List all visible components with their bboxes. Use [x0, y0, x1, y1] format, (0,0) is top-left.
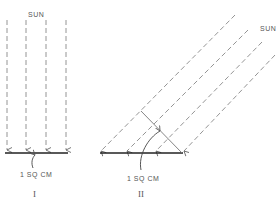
ray-line	[127, 30, 248, 151]
sun-label-ii: SUN	[260, 25, 276, 32]
ray-line	[184, 55, 275, 151]
ray-line	[101, 15, 235, 151]
ray-line	[156, 42, 262, 151]
rays-i	[7, 20, 66, 150]
roman-label-ii: II	[138, 189, 144, 199]
sun-label-i: SUN	[28, 11, 44, 18]
rays-ii	[101, 15, 275, 151]
panel-ii: SUN 1 SQ CM II	[100, 15, 276, 199]
area-label-i: 1 SQ CM	[20, 171, 52, 179]
pointer-arrow-ii	[140, 131, 160, 170]
area-label-ii: 1 SQ CM	[127, 175, 159, 183]
panel-i: SUN 1 SQ CM I	[5, 11, 68, 199]
insolation-diagram: SUN 1 SQ CM I SUN 1 SQ CM II	[0, 0, 278, 203]
perpendicular-cross-section	[141, 111, 182, 153]
pointer-arrow-i	[32, 155, 35, 168]
roman-label-i: I	[33, 189, 36, 199]
